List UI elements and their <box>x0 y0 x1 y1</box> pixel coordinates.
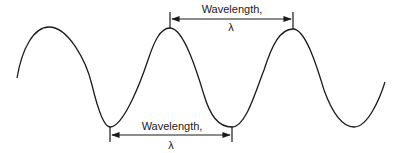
bottom-wavelength-label: Wavelength, <box>142 120 203 132</box>
wave-diagram: Wavelength, λ Wavelength, λ <box>0 0 399 153</box>
top-wavelength-label: Wavelength, <box>202 3 263 15</box>
bottom-wavelength-bracket: Wavelength, λ <box>110 120 232 151</box>
top-wavelength-bracket: Wavelength, λ <box>170 3 293 33</box>
bottom-lambda-symbol: λ <box>168 139 174 151</box>
sine-wave <box>17 27 385 127</box>
top-lambda-symbol: λ <box>228 21 234 33</box>
